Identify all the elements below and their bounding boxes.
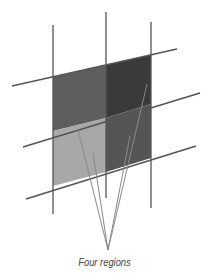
diagram-caption: Four regions (16, 256, 194, 268)
four-regions-diagram (0, 0, 209, 278)
